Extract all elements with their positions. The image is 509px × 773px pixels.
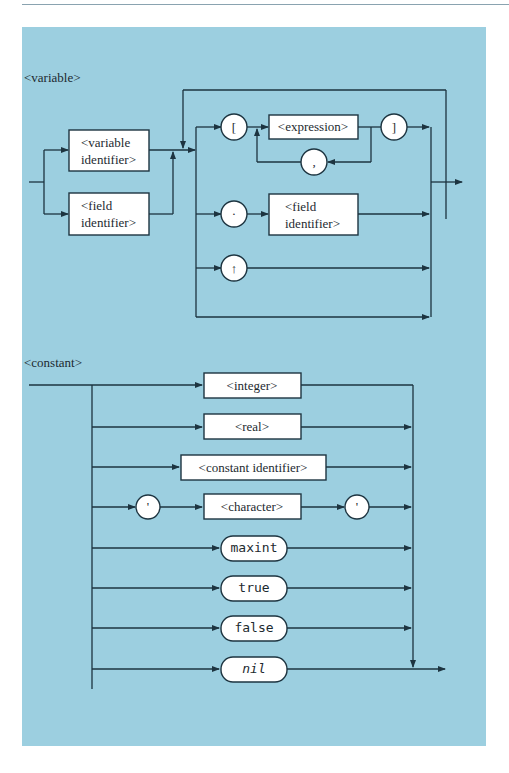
maxint-terminal: maxint bbox=[221, 536, 287, 561]
svg-text:<variable: <variable bbox=[81, 135, 130, 150]
expression-box: <expression> bbox=[269, 115, 358, 139]
svg-text:<character>: <character> bbox=[221, 499, 283, 514]
variable-diagram: <variable> <variable identifier> <field … bbox=[24, 70, 462, 317]
integer-box: <integer> bbox=[204, 373, 301, 398]
true-terminal: true bbox=[221, 576, 287, 601]
svg-text:↑: ↑ bbox=[231, 261, 238, 276]
field-identifier-box-2: <field identifier> bbox=[269, 194, 358, 235]
field-identifier-box: <field identifier> bbox=[69, 193, 149, 235]
close-bracket-terminal: ] bbox=[381, 114, 407, 140]
variable-title: <variable> bbox=[24, 70, 81, 85]
comma-terminal: , bbox=[301, 149, 327, 175]
svg-text:identifier>: identifier> bbox=[81, 215, 136, 230]
syntax-diagrams: <variable> <variable identifier> <field … bbox=[0, 0, 509, 773]
svg-text:<real>: <real> bbox=[235, 419, 269, 434]
svg-text:nil: nil bbox=[242, 661, 265, 676]
constant-identifier-box: <constant identifier> bbox=[181, 455, 326, 480]
svg-text:true: true bbox=[238, 580, 269, 595]
svg-text:maxint: maxint bbox=[231, 540, 278, 555]
svg-text:[: [ bbox=[232, 120, 236, 135]
svg-text:<constant identifier>: <constant identifier> bbox=[199, 460, 308, 475]
svg-text:identifier>: identifier> bbox=[81, 152, 136, 167]
svg-text:,: , bbox=[312, 154, 315, 169]
pointer-terminal: ↑ bbox=[221, 255, 247, 281]
quote-close-terminal: ' bbox=[345, 495, 369, 519]
real-box: <real> bbox=[204, 414, 301, 439]
constant-title: <constant> bbox=[24, 355, 82, 370]
character-box: <character> bbox=[204, 494, 301, 519]
svg-text:]: ] bbox=[392, 120, 396, 135]
svg-text:false: false bbox=[234, 620, 273, 635]
open-bracket-terminal: [ bbox=[221, 114, 247, 140]
svg-text:<field: <field bbox=[81, 198, 113, 213]
svg-text:<integer>: <integer> bbox=[227, 378, 278, 393]
svg-text:<field: <field bbox=[285, 199, 317, 214]
nil-terminal: nil bbox=[221, 657, 287, 682]
constant-diagram: <constant> <integer> <real> <constant id… bbox=[24, 355, 445, 689]
svg-text:': ' bbox=[356, 499, 358, 514]
svg-text:': ' bbox=[147, 499, 149, 514]
quote-open-terminal: ' bbox=[136, 495, 160, 519]
svg-text:identifier>: identifier> bbox=[285, 216, 340, 231]
dot-terminal: · bbox=[221, 201, 247, 227]
false-terminal: false bbox=[221, 616, 287, 641]
svg-text:<expression>: <expression> bbox=[278, 119, 348, 134]
svg-text:·: · bbox=[232, 206, 236, 221]
variable-identifier-box: <variable identifier> bbox=[69, 130, 149, 171]
